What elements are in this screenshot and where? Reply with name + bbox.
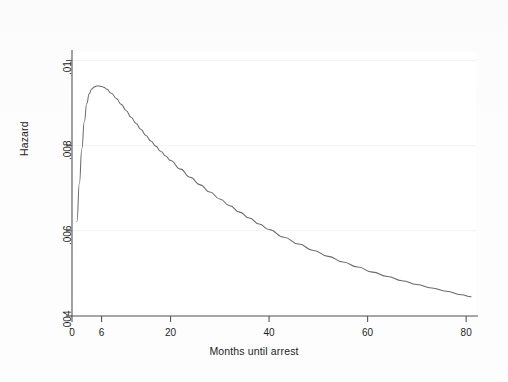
y-tick-label: .01 — [62, 61, 73, 75]
x-tick-label: 6 — [99, 327, 105, 338]
x-tick-label: 80 — [461, 327, 472, 338]
x-tick-label: 40 — [264, 327, 275, 338]
x-tick-marks-group — [72, 316, 466, 322]
x-tick-label: 20 — [165, 327, 176, 338]
y-tick-label: .006 — [62, 225, 73, 244]
chart-plot-svg — [0, 0, 508, 382]
plot-area-background — [72, 52, 476, 315]
x-axis-title: Months until arrest — [0, 345, 508, 357]
x-tick-label: 60 — [362, 327, 373, 338]
y-tick-marks-group — [66, 61, 72, 316]
x-tick-label: 0 — [69, 327, 75, 338]
hazard-chart-figure: Hazard Months until arrest .004.006.008.… — [0, 0, 508, 382]
y-tick-label: .008 — [62, 140, 73, 159]
y-axis-title: Hazard — [18, 121, 30, 156]
